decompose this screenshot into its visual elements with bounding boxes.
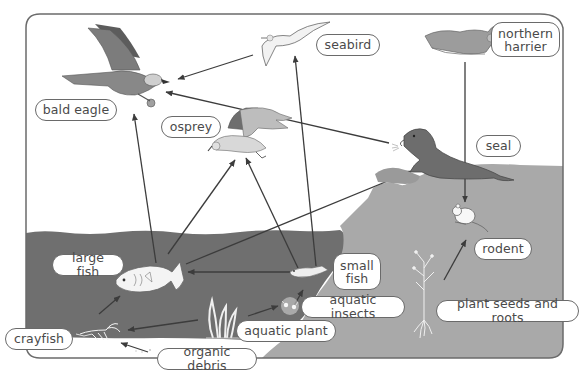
food-web-diagram: bald eagle seabird northern harrier ospr… [0,0,585,377]
northern-harrier-illustration [425,26,500,54]
label-organic-debris: organic debris [157,348,257,370]
label-plant-seeds-and-roots: plant seeds and roots [436,300,579,322]
bald-eagle-illustration [62,24,170,107]
label-seal: seal [476,135,521,157]
label-small-fish: small fish [333,253,381,290]
arrow-seabird-to-bald-eagle [178,55,253,79]
label-bald-eagle: bald eagle [35,99,117,121]
label-seabird: seabird [316,34,380,56]
label-aquatic-plant: aquatic plant [236,320,336,342]
label-osprey: osprey [161,116,221,138]
osprey-illustration [208,108,292,158]
label-northern-harrier: northern harrier [491,22,560,57]
label-rodent: rodent [474,238,532,260]
label-aquatic-insects: aquatic insects [301,296,405,318]
aquatic-insects-illustration [281,297,299,315]
label-crayfish: crayfish [5,328,73,350]
frame [40,14,578,22]
label-large-fish: large fish [52,254,124,276]
